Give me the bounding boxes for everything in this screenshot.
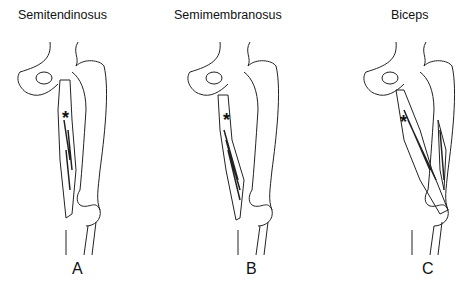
panel-c-label: C: [422, 260, 434, 278]
panel-a-label: A: [72, 260, 83, 278]
panel-a-drawing: [18, 42, 107, 255]
marker-c: *: [400, 112, 407, 133]
marker-a: *: [62, 108, 69, 129]
panel-b-drawing: [188, 42, 279, 255]
marker-b: *: [223, 110, 230, 131]
hamstring-illustration: [0, 0, 474, 289]
panel-b-label: B: [246, 260, 257, 278]
panel-c-drawing: [364, 42, 455, 255]
